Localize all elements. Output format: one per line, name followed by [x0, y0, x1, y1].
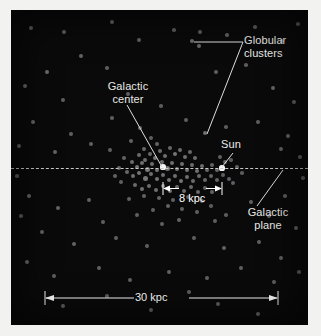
galactic-plane-leader [257, 170, 283, 206]
figure-root: Globular clusters Galactic center Sun Ga… [0, 0, 321, 336]
sun-leader [222, 153, 233, 167]
globular-clusters-leader-lower [207, 42, 243, 134]
scale-label-30kpc: 30 kpc [135, 291, 167, 303]
label-sun: Sun [221, 138, 241, 151]
label-galactic-plane: Galactic plane [233, 206, 303, 231]
label-galactic-center: Galactic center [89, 80, 167, 105]
scale-label-8kpc: 8 kpc [179, 192, 205, 204]
label-globular-clusters: Globular clusters [244, 34, 286, 59]
starfield-panel: Globular clusters Galactic center Sun Ga… [11, 10, 308, 325]
galactic-center-leader [127, 105, 162, 167]
